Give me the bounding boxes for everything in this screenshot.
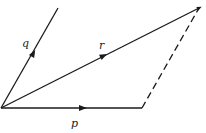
diagram-canvas [0, 0, 206, 133]
label-p: p [71, 118, 78, 129]
vector-diagram: q r p [0, 0, 206, 133]
vector-r-line [1, 8, 199, 108]
label-r: r [99, 40, 104, 51]
arrow-r-icon [99, 51, 108, 60]
label-q: q [22, 38, 29, 49]
arrow-p-icon [79, 105, 87, 111]
